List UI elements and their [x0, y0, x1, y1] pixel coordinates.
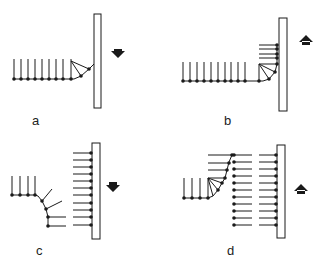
panel-c	[10, 143, 120, 239]
strands-b	[183, 45, 277, 81]
wall-d	[277, 145, 285, 238]
panel-b	[181, 18, 313, 111]
panel-label-b: b	[224, 113, 231, 128]
panel-a	[12, 14, 125, 108]
panel-label-c: c	[36, 243, 43, 258]
arrow-down-icon	[111, 49, 125, 58]
arrow-up-icon	[299, 35, 313, 45]
panel-d	[182, 145, 308, 238]
figure-canvas	[0, 0, 326, 262]
wall-c	[92, 143, 100, 239]
desorbed-beads-d	[232, 153, 236, 227]
panel-label-a: a	[32, 113, 39, 128]
adsorbed-strands-c	[73, 153, 91, 225]
desorbed-strands-d	[234, 155, 252, 225]
adsorbed-strands-d	[259, 155, 276, 225]
strands-c	[12, 176, 66, 226]
wall-a	[94, 14, 101, 108]
strands-a	[14, 59, 89, 79]
wall-b	[279, 18, 287, 111]
panel-label-d: d	[227, 243, 234, 258]
arrow-down-icon	[106, 182, 120, 192]
arrow-up-icon	[294, 184, 308, 194]
